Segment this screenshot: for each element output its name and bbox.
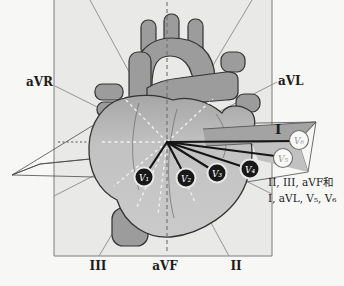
electrode-v1: V₁	[135, 168, 154, 187]
left-branch-a	[95, 84, 123, 100]
electrode-v6: V₆	[290, 131, 309, 150]
right-branch-upper	[221, 52, 245, 72]
caption-line2: I, aVL, V₅, V₆	[268, 192, 337, 204]
electrode-v5: V₅	[274, 149, 293, 168]
svg-text:V₁: V₁	[139, 173, 149, 183]
label-lead-ii: II	[230, 259, 242, 273]
label-lead-iii: III	[90, 259, 107, 273]
label-avl: aVL	[278, 74, 304, 88]
svg-text:V₄: V₄	[245, 165, 255, 175]
svg-text:V₅: V₅	[278, 154, 288, 164]
svg-text:V₃: V₃	[212, 169, 222, 179]
label-lead-i: I	[275, 121, 281, 137]
label-avr: aVR	[26, 75, 54, 89]
svg-text:V₆: V₆	[294, 136, 304, 146]
svg-text:V₂: V₂	[181, 174, 191, 184]
lead-line-v6	[167, 141, 299, 142]
label-avf: aVF	[152, 259, 178, 273]
ecg-lead-axes-diagram: V₁ V₂ V₃ V₄ V₅ V₆ aVR aVL I III aVF II I…	[0, 0, 344, 286]
electrode-v2: V₂	[177, 169, 196, 188]
electrode-v3: V₃	[208, 164, 227, 183]
electrode-v4: V₄	[241, 160, 260, 179]
caption-line1: II, III, aVF和	[268, 176, 333, 188]
